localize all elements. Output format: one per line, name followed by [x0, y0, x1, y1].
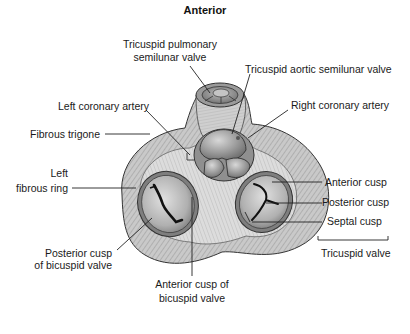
heart-valves-diagram: Anterior [0, 0, 410, 334]
label-pulmonary-valve-2: semilunar valve [134, 51, 207, 63]
label-tricuspid-valve: Tricuspid valve [321, 247, 391, 259]
label-posterior-cusp-bicuspid-2: of bicuspid valve [34, 259, 112, 271]
label-posterior-cusp: Posterior cusp [322, 196, 389, 208]
label-left-fibrous-ring-1: Left [50, 167, 68, 179]
label-right-coronary-artery: Right coronary artery [291, 99, 390, 111]
label-left-fibrous-ring-2: fibrous ring [16, 182, 68, 194]
orientation-title: Anterior [184, 4, 228, 16]
label-aortic-valve: Tricuspid aortic semilunar valve [245, 63, 392, 75]
label-posterior-cusp-bicuspid-1: Posterior cusp [45, 247, 112, 259]
label-pulmonary-valve-1: Tricuspid pulmonary [123, 38, 218, 50]
label-anterior-cusp: Anterior cusp [325, 176, 387, 188]
label-fibrous-trigone: Fibrous trigone [30, 128, 100, 140]
label-anterior-cusp-bicuspid-2: bicuspid valve [159, 292, 225, 304]
label-left-coronary-artery: Left coronary artery [58, 100, 150, 112]
label-septal-cusp: Septal cusp [327, 215, 382, 227]
label-anterior-cusp-bicuspid-1: Anterior cusp of [155, 278, 229, 290]
